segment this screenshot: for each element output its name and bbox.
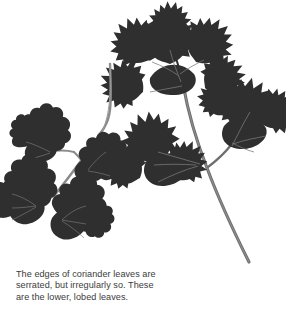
coriander-photograph — [0, 0, 286, 268]
photo-caption: The edges of coriander leaves are serrat… — [16, 269, 216, 303]
photo-plate: The edges of coriander leaves are serrat… — [0, 0, 286, 321]
